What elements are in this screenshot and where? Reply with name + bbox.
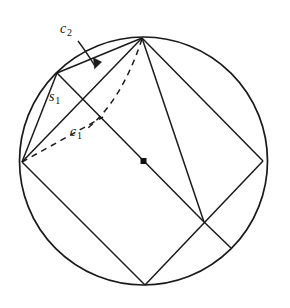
label-c2-subscript: 2 xyxy=(66,27,72,38)
label-s1-subscript: 1 xyxy=(55,95,61,106)
label-s1: s1 xyxy=(49,90,60,106)
square-side-top-left xyxy=(22,38,142,162)
chord-cross-lowerright xyxy=(204,222,231,248)
label-c1: c1 xyxy=(70,125,82,141)
square-side-left-bottom xyxy=(22,162,145,285)
center-dot xyxy=(141,158,147,164)
dashed-arc-top-to-left xyxy=(88,39,142,128)
diagonal-top-bottom xyxy=(142,38,204,222)
label-c2: c2 xyxy=(60,22,72,38)
chord-upperleft-cross xyxy=(57,73,204,222)
square-side-right-top xyxy=(142,38,263,161)
label-s1-base: s xyxy=(49,89,55,104)
label-c1-subscript: 1 xyxy=(76,130,82,141)
figure-canvas xyxy=(0,0,290,308)
chord-c2-upperleft-top xyxy=(57,38,142,73)
dashed-chord-left-c1 xyxy=(22,117,103,162)
geometry-figure: c2 s1 c1 xyxy=(0,0,290,308)
